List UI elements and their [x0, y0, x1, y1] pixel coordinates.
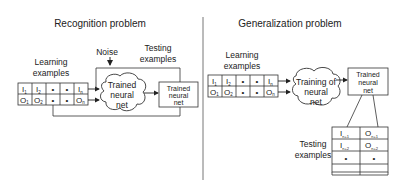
- cloud-label-3: net: [116, 100, 128, 110]
- cell-dot: •: [345, 154, 348, 163]
- box-label-3: net: [174, 99, 184, 106]
- learning-examples-label-2: examples: [224, 61, 260, 71]
- cloud-label-3: net: [310, 97, 322, 107]
- recognition-title: Recognition problem: [54, 18, 146, 29]
- learning-examples-label-2: examples: [33, 68, 69, 78]
- diagram-canvas: Recognition problem Learning examples No…: [0, 0, 410, 193]
- box-label-1: Trained: [356, 71, 380, 78]
- cell-dot: •: [52, 96, 55, 105]
- learning-examples-table: I1 I2 • • In O1 O2 • • On: [208, 75, 278, 97]
- cell-dot: •: [256, 77, 259, 86]
- cell-dot: •: [66, 85, 69, 94]
- cell-dot: •: [373, 154, 376, 163]
- cloud-label-1: Training of: [296, 77, 336, 87]
- cloud-label-1: Trained: [108, 80, 137, 90]
- generalization-panel: Generalization problem Learning examples…: [208, 18, 388, 175]
- learning-examples-label-1: Learning: [225, 50, 258, 60]
- box-label-1: Trained: [167, 85, 191, 92]
- box-label-3: net: [363, 87, 373, 94]
- cell-dot: •: [256, 88, 259, 97]
- box-label-2: neural: [358, 79, 378, 86]
- noise-label: Noise: [96, 47, 118, 57]
- learning-examples-label-1: Learning: [34, 57, 67, 67]
- testing-examples-label-1: Testing: [300, 139, 327, 149]
- testing-examples-label-2: examples: [140, 54, 176, 64]
- generalization-title: Generalization problem: [238, 18, 341, 29]
- testing-examples-label-2: examples: [295, 150, 331, 160]
- box-to-table-line-left: [347, 95, 362, 127]
- box-label-2: neural: [169, 92, 189, 99]
- learning-examples-table: I1 I2 • • In O1 O2 • • On: [18, 83, 88, 105]
- cell-dot: •: [66, 96, 69, 105]
- cloud-label-2: neural: [304, 87, 328, 97]
- cell-dot: •: [52, 85, 55, 94]
- testing-examples-table: In+1 On+1 In+2 On+2 • •: [332, 127, 388, 175]
- cell-dot: •: [242, 77, 245, 86]
- box-to-table-line-right: [373, 95, 378, 127]
- recognition-panel: Recognition problem Learning examples No…: [18, 18, 198, 116]
- cloud-label-2: neural: [110, 90, 134, 100]
- testing-examples-label-1: Testing: [145, 43, 172, 53]
- cell-dot: •: [242, 88, 245, 97]
